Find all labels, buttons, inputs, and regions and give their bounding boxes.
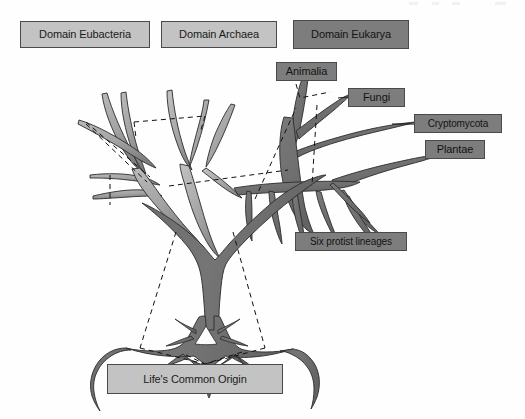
label-six-protist-lineages[interactable]: Six protist lineages bbox=[295, 232, 407, 251]
branch-archaea-right-spike bbox=[189, 100, 209, 168]
label-domain-eukarya-text: Domain Eukarya bbox=[311, 29, 391, 40]
figure-canvas: Domain Eubacteria Domain Archaea Domain … bbox=[0, 0, 525, 419]
branch-eubacteria-upper-left bbox=[102, 93, 140, 170]
label-domain-eubacteria-text: Domain Eubacteria bbox=[39, 29, 131, 40]
label-lifes-common-origin-text: Life's Common Origin bbox=[143, 374, 246, 385]
tree-of-life-illustration bbox=[0, 0, 525, 419]
root-right bbox=[280, 349, 319, 409]
root-tuft-midleft bbox=[175, 319, 196, 334]
label-domain-archaea-text: Domain Archaea bbox=[179, 29, 259, 40]
label-plantae[interactable]: Plantae bbox=[425, 140, 485, 159]
dash-origin-left bbox=[140, 232, 176, 348]
label-cryptomycota-text: Cryptomycota bbox=[428, 119, 489, 129]
branch-eukarya-spike-right bbox=[330, 183, 370, 223]
label-fungi[interactable]: Fungi bbox=[348, 88, 405, 107]
branch-archaea-stub bbox=[202, 168, 242, 198]
branch-archaea-outer-right bbox=[206, 104, 235, 167]
label-plantae-text: Plantae bbox=[437, 144, 474, 155]
dash-origin-right bbox=[233, 232, 265, 348]
label-lifes-common-origin[interactable]: Life's Common Origin bbox=[107, 364, 283, 394]
label-domain-archaea[interactable]: Domain Archaea bbox=[161, 21, 277, 48]
label-domain-eukarya[interactable]: Domain Eukarya bbox=[293, 20, 409, 49]
label-animalia[interactable]: Animalia bbox=[276, 62, 337, 81]
label-animalia-text: Animalia bbox=[286, 66, 327, 77]
label-domain-eubacteria[interactable]: Domain Eubacteria bbox=[20, 21, 150, 48]
branch-archaea-left-spike bbox=[167, 90, 192, 170]
label-six-protist-lineages-text: Six protist lineages bbox=[310, 237, 392, 247]
label-cryptomycota[interactable]: Cryptomycota bbox=[414, 114, 502, 133]
label-fungi-text: Fungi bbox=[363, 92, 390, 103]
